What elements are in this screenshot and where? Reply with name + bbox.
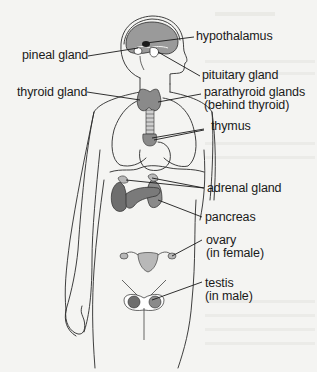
hypothalamus-gland: [142, 41, 150, 47]
hand: [66, 306, 85, 334]
label-adrenal-gland: adrenal gland: [207, 182, 281, 195]
waist-right: [178, 200, 196, 368]
label-ovary-line2: (in female): [206, 247, 264, 260]
testis-left: [128, 296, 140, 308]
label-pancreas: pancreas: [205, 211, 256, 224]
label-pineal-gland: pineal gland: [22, 49, 88, 62]
brainstem: [140, 56, 144, 70]
label-thymus: thymus: [211, 120, 251, 133]
adrenal-right: [148, 174, 158, 181]
thyroid-gland-shape: [137, 89, 161, 111]
diaphragm: [110, 166, 204, 172]
pituitary-gland-shape: [150, 47, 159, 57]
arm-left-inner: [84, 150, 100, 332]
arm-left-outer: [65, 112, 94, 310]
label-thyroid-gland: thyroid gland: [17, 86, 87, 99]
label-testis-line2: (in male): [205, 290, 253, 303]
label-hypothalamus: hypothalamus: [196, 30, 273, 43]
ovary-left: [120, 253, 128, 259]
label-parathyroid-line2: (behind thyroid): [204, 99, 289, 112]
label-pituitary-gland: pituitary gland: [202, 69, 278, 82]
kidney-left: [111, 182, 127, 211]
uterus-shape: [138, 253, 158, 273]
